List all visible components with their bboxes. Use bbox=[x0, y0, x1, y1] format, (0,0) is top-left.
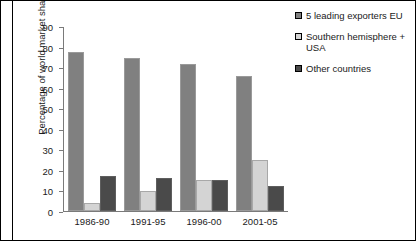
legend-swatch-5-leading-exporters-eu bbox=[295, 12, 302, 19]
bar-southern-hemisphere-usa-1996-00 bbox=[196, 180, 212, 211]
y-tick-label-20: 20 bbox=[42, 165, 53, 176]
bar-5-leading-exporters-eu-2001-05 bbox=[236, 76, 252, 211]
legend-item-other-countries: Other countries bbox=[295, 63, 415, 74]
bar-group-1991-95 bbox=[120, 27, 176, 211]
x-tick-label-1996-00: 1996-00 bbox=[176, 216, 232, 227]
bar-5-leading-exporters-eu-1986-90 bbox=[68, 52, 84, 211]
bar-group-1986-90 bbox=[64, 27, 120, 211]
x-tick-label-2001-05: 2001-05 bbox=[232, 216, 288, 227]
y-tick-label-10: 10 bbox=[42, 186, 53, 197]
x-tick-label-1986-90: 1986-90 bbox=[64, 216, 120, 227]
x-axis-category-labels: 1986-90 1991-95 1996-00 2001-05 bbox=[64, 216, 288, 227]
y-tick-label-30: 30 bbox=[42, 145, 53, 156]
bar-5-leading-exporters-eu-1996-00 bbox=[180, 64, 196, 211]
y-tick-70: 70 bbox=[59, 68, 63, 69]
bar-other-countries-2001-05 bbox=[268, 186, 284, 211]
x-axis-line bbox=[63, 211, 288, 212]
y-tick-30: 30 bbox=[59, 150, 63, 151]
y-tick-10: 10 bbox=[59, 191, 63, 192]
bar-southern-hemisphere-usa-2001-05 bbox=[252, 160, 268, 211]
y-tick-label-0: 0 bbox=[48, 207, 53, 218]
plot-area: 90 80 70 60 50 40 30 20 10 0 bbox=[63, 27, 288, 212]
legend-label-5-leading-exporters-eu: 5 leading exporters EU bbox=[306, 10, 403, 21]
legend-item-southern-hemisphere-usa: Southern hemisphere + USA bbox=[295, 31, 415, 53]
y-tick-label-40: 40 bbox=[42, 124, 53, 135]
bar-other-countries-1996-00 bbox=[212, 180, 228, 211]
chart-legend: 5 leading exporters EU Southern hemisphe… bbox=[295, 10, 415, 74]
y-tick-0: 0 bbox=[59, 212, 63, 213]
y-tick-90: 90 bbox=[59, 27, 63, 28]
bar-group-2001-05 bbox=[232, 27, 288, 211]
bar-southern-hemisphere-usa-1986-90 bbox=[84, 203, 100, 211]
y-tick-label-50: 50 bbox=[42, 104, 53, 115]
bar-chart-figure: Percentage of world market share 90 80 7… bbox=[0, 0, 416, 241]
y-tick-20: 20 bbox=[59, 171, 63, 172]
legend-label-southern-hemisphere-usa: Southern hemisphere + USA bbox=[306, 31, 415, 53]
bar-southern-hemisphere-usa-1991-95 bbox=[140, 191, 156, 211]
legend-item-5-leading-exporters-eu: 5 leading exporters EU bbox=[295, 10, 415, 21]
bar-other-countries-1986-90 bbox=[100, 176, 116, 211]
legend-swatch-other-countries bbox=[295, 65, 302, 72]
x-tick-label-1991-95: 1991-95 bbox=[120, 216, 176, 227]
legend-swatch-southern-hemisphere-usa bbox=[295, 33, 302, 40]
y-tick-60: 60 bbox=[59, 89, 63, 90]
y-tick-40: 40 bbox=[59, 130, 63, 131]
page-gutter-rule bbox=[12, 1, 13, 241]
legend-label-other-countries: Other countries bbox=[306, 63, 371, 74]
bar-5-leading-exporters-eu-1991-95 bbox=[124, 58, 140, 211]
y-tick-label-90: 90 bbox=[42, 22, 53, 33]
y-tick-label-80: 80 bbox=[42, 42, 53, 53]
y-tick-80: 80 bbox=[59, 48, 63, 49]
bar-group-1996-00 bbox=[176, 27, 232, 211]
y-tick-label-60: 60 bbox=[42, 83, 53, 94]
y-tick-50: 50 bbox=[59, 109, 63, 110]
bar-groups bbox=[64, 27, 288, 211]
bar-other-countries-1991-95 bbox=[156, 178, 172, 211]
y-tick-label-70: 70 bbox=[42, 63, 53, 74]
